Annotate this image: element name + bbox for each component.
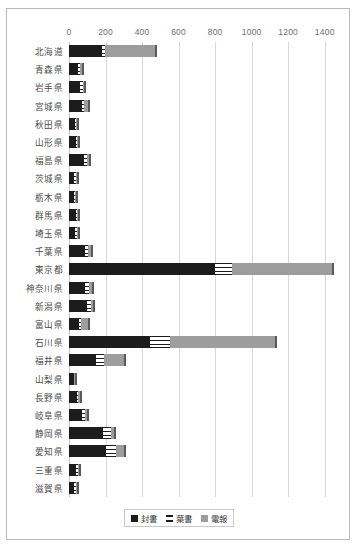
bar-segment (69, 318, 79, 330)
bar-segment (104, 354, 124, 366)
bar-end-cap (332, 263, 334, 275)
stacked-bar[interactable] (69, 118, 77, 130)
category-label: 長野県 (7, 391, 63, 403)
category-label: 石川県 (7, 336, 63, 348)
category-label: 茨城県 (7, 172, 63, 184)
bar-row: 岐阜県 (7, 406, 351, 425)
category-label: 栃木県 (7, 191, 63, 203)
bar-row: 富山県 (7, 315, 351, 334)
bar-row: 福井県 (7, 351, 351, 370)
bar-end-cap (124, 445, 126, 457)
stacked-bar[interactable] (69, 318, 88, 330)
bar-end-cap (78, 209, 80, 221)
bar-rows: 北海道青森県岩手県宮城県秋田県山形県福島県茨城県栃木県群馬県埼玉県千葉県東京都神… (7, 42, 351, 497)
bar-end-cap (77, 482, 79, 494)
stacked-bar[interactable] (69, 100, 88, 112)
stacked-bar[interactable] (69, 409, 87, 421)
stacked-bar[interactable] (69, 482, 77, 494)
bar-row: 群馬県 (7, 206, 351, 225)
category-label: 福島県 (7, 154, 63, 166)
legend-item[interactable]: 葉書 (166, 512, 192, 524)
legend-item[interactable]: 電報 (201, 512, 227, 524)
stacked-bar[interactable] (69, 63, 82, 75)
category-label: 神奈川県 (7, 282, 63, 294)
stacked-bar[interactable] (69, 336, 275, 348)
chart-legend: 封書葉書電報 (124, 509, 234, 527)
black-square-icon (131, 515, 138, 522)
x-axis-tick-labels: 0200400600800100012001400 (7, 27, 351, 41)
category-label: 千葉県 (7, 245, 63, 257)
bar-segment (69, 336, 150, 348)
stacked-bar[interactable] (69, 391, 80, 403)
bar-end-cap (78, 136, 80, 148)
bar-segment (69, 445, 106, 457)
x-tick-label: 0 (67, 27, 72, 37)
bar-segment (69, 209, 76, 221)
bar-segment (69, 154, 84, 166)
bar-segment (69, 63, 78, 75)
gray-square-icon (201, 515, 208, 522)
category-label: 群馬県 (7, 209, 63, 221)
stacked-bar[interactable] (69, 282, 92, 294)
bar-segment (105, 45, 155, 57)
bar-end-cap (124, 354, 126, 366)
stacked-bar[interactable] (69, 81, 84, 93)
bar-end-cap (82, 63, 84, 75)
x-tick-label: 400 (135, 27, 150, 37)
bar-segment (69, 100, 82, 112)
category-label: 福井県 (7, 354, 63, 366)
category-label: 山梨県 (7, 373, 63, 385)
bar-end-cap (92, 282, 94, 294)
stacked-bar[interactable] (69, 300, 93, 312)
stacked-bar[interactable] (69, 427, 114, 439)
bar-row: 滋賀県 (7, 479, 351, 498)
bar-row: 静岡県 (7, 424, 351, 443)
stacked-bar[interactable] (69, 445, 124, 457)
bar-segment (170, 336, 275, 348)
category-label: 秋田県 (7, 118, 63, 130)
stacked-bar[interactable] (69, 154, 89, 166)
stacked-bar[interactable] (69, 373, 75, 385)
stacked-bar[interactable] (69, 45, 155, 57)
category-label: 愛知県 (7, 445, 63, 457)
stacked-bar[interactable] (69, 464, 79, 476)
stacked-bar[interactable] (69, 354, 124, 366)
bar-end-cap (75, 373, 77, 385)
bar-row: 石川県 (7, 333, 351, 352)
stacked-bar[interactable] (69, 245, 91, 257)
category-label: 岐阜県 (7, 409, 63, 421)
plot-area: 0200400600800100012001400 北海道青森県岩手県宮城県秋田… (7, 9, 351, 541)
category-label: 三重県 (7, 464, 63, 476)
bar-segment (69, 300, 87, 312)
bar-end-cap (76, 191, 78, 203)
x-tick-label: 1400 (315, 27, 335, 37)
bar-segment (69, 354, 96, 366)
bar-row: 栃木県 (7, 188, 351, 207)
bar-row: 茨城県 (7, 169, 351, 188)
bar-row: 三重県 (7, 461, 351, 480)
x-tick-label: 800 (208, 27, 223, 37)
stacked-bar[interactable] (69, 209, 78, 221)
stacked-bar[interactable] (69, 263, 332, 275)
stacked-bar[interactable] (69, 227, 78, 239)
bar-segment (69, 282, 85, 294)
stacked-bar[interactable] (69, 136, 78, 148)
x-tick-label: 1000 (242, 27, 262, 37)
bar-end-cap (89, 154, 91, 166)
category-label: 滋賀県 (7, 482, 63, 494)
bar-row: 岩手県 (7, 78, 351, 97)
bar-end-cap (77, 118, 79, 130)
bar-row: 長野県 (7, 388, 351, 407)
stacked-bar[interactable] (69, 191, 76, 203)
bar-end-cap (79, 464, 81, 476)
striped-square-icon (166, 515, 173, 522)
bar-row: 秋田県 (7, 115, 351, 134)
stacked-bar[interactable] (69, 172, 77, 184)
legend-item[interactable]: 封書 (131, 512, 157, 524)
bar-end-cap (91, 245, 93, 257)
category-label: 宮城県 (7, 100, 63, 112)
bar-segment (69, 245, 85, 257)
category-label: 北海道 (7, 45, 63, 57)
bar-segment (69, 263, 215, 275)
category-label: 埼玉県 (7, 227, 63, 239)
